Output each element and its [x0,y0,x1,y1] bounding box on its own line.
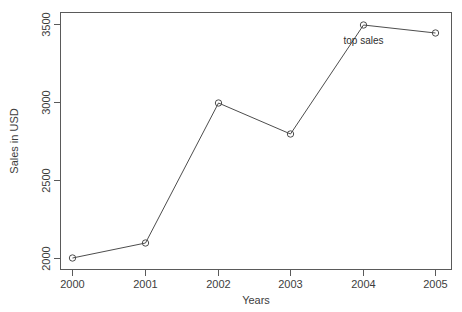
plot-frame [61,13,452,270]
y-axis-ticks [54,25,60,259]
x-tick-label-2001: 2001 [133,278,157,290]
chart-figure: 3500 3000 2500 2000 2000 2001 2002 2003 … [0,0,462,312]
x-tick-label-2000: 2000 [60,278,84,290]
sales-data-points [69,22,438,261]
y-tick-label-3500: 3500 [40,12,52,36]
y-tick-label-2500: 2500 [40,168,52,192]
line-chart-canvas: 3500 3000 2500 2000 2000 2001 2002 2003 … [0,0,462,312]
x-tick-label-2005: 2005 [423,278,447,290]
y-tick-label-3000: 3000 [40,90,52,114]
x-axis-ticks [73,270,436,276]
y-axis-tick-labels: 3500 3000 2500 2000 [40,12,52,270]
y-tick-label-2000: 2000 [40,246,52,270]
x-tick-label-2003: 2003 [278,278,302,290]
x-tick-label-2004: 2004 [351,278,375,290]
sales-line-series [73,25,436,258]
x-axis-tick-labels: 2000 2001 2002 2003 2004 2005 [60,278,447,290]
x-tick-label-2002: 2002 [206,278,230,290]
y-axis-title: Sales in USD [8,108,20,173]
x-axis-title: Years [242,294,270,306]
top-sales-annotation: top sales [343,35,383,46]
